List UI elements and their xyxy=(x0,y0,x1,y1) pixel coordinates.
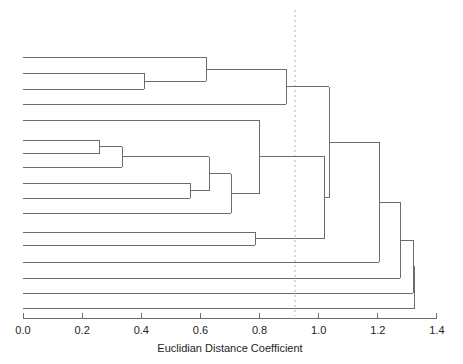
x-axis-tick-label: 1.0 xyxy=(311,324,326,336)
x-axis-tick-label: 0.2 xyxy=(74,324,89,336)
dendrogram-chart: 0.00.20.40.60.81.01.21.4 Euclidian Dista… xyxy=(0,0,463,364)
dendrogram-tree xyxy=(23,57,415,308)
x-axis xyxy=(23,313,437,318)
x-axis-tick-label: 0.8 xyxy=(252,324,267,336)
x-axis-tick-labels: 0.00.20.40.60.81.01.21.4 xyxy=(15,324,444,336)
x-axis-tick-label: 0.4 xyxy=(134,324,149,336)
x-axis-tick-label: 1.4 xyxy=(429,324,444,336)
x-axis-tick-label: 0.0 xyxy=(15,324,30,336)
x-axis-tick-label: 1.2 xyxy=(370,324,385,336)
dendrogram-plot-area: 0.00.20.40.60.81.01.21.4 Euclidian Dista… xyxy=(0,0,463,364)
x-axis-title: Euclidian Distance Coefficient xyxy=(157,342,302,354)
x-axis-tick-label: 0.6 xyxy=(193,324,208,336)
